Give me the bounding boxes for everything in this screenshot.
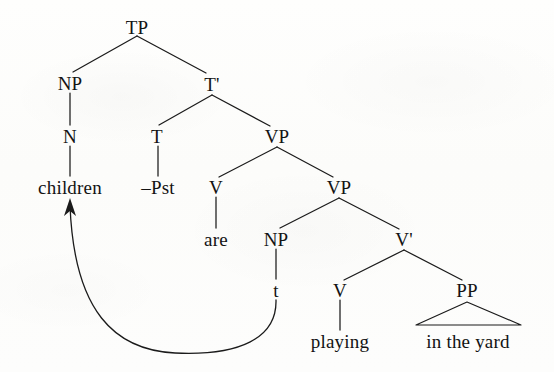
- tree-edge-tbar-to-vp1: [212, 95, 270, 126]
- tree-node-np2: NP: [264, 230, 289, 249]
- tree-edge-vp1-to-v1: [219, 147, 277, 177]
- tree-edges: [70, 36, 462, 330]
- movement-arc-path: [70, 205, 276, 353]
- tree-edge-vp2-to-vbar: [339, 198, 399, 229]
- tree-node-vp2: VP: [327, 178, 352, 197]
- syntax-tree-diagram: TPNPT'NTVPchildren–PstVVPareNPV'tVPPplay…: [0, 0, 554, 372]
- tree-edge-vbar-to-pp: [404, 250, 462, 280]
- tree-edge-vp1-to-vp2: [277, 147, 333, 177]
- tree-edge-tbar-to-t1: [159, 95, 212, 125]
- pp-triangle: [416, 302, 521, 325]
- tree-node-pp: PP: [456, 281, 478, 300]
- tree-node-vbar: V': [395, 230, 413, 249]
- tree-node-are: are: [204, 230, 228, 249]
- pp-triangle-shape: [416, 302, 521, 325]
- tree-node-playing: playing: [311, 332, 369, 351]
- tree-node-tbar: T': [204, 75, 219, 94]
- tree-node-tp: TP: [126, 18, 149, 37]
- tree-node-np1: NP: [58, 74, 83, 93]
- tree-node-t1: T: [151, 127, 163, 146]
- tree-node-v1: V: [209, 178, 223, 197]
- tree-edge-tp-to-tbar: [137, 36, 206, 73]
- tree-node-n1: N: [63, 127, 77, 146]
- tree-edge-vp2-to-np2: [280, 198, 339, 228]
- tree-node-children: children: [38, 178, 102, 197]
- tree-edge-tp-to-np1: [73, 36, 137, 72]
- tree-node-pst: –Pst: [141, 178, 175, 197]
- tree-node-in_the_yard: in the yard: [426, 332, 509, 351]
- tree-node-vp1: VP: [265, 127, 290, 146]
- tree-edge-vbar-to-v2: [344, 250, 404, 280]
- tree-node-trace: t: [273, 281, 278, 300]
- tree-node-v2: V: [333, 281, 347, 300]
- movement-arrow: [64, 198, 276, 353]
